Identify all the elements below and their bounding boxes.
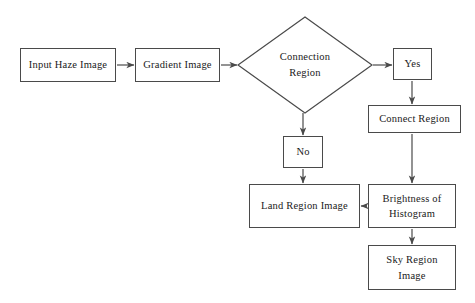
- node-connection-region[interactable]: ConnectionRegion: [238, 17, 372, 113]
- node-no[interactable]: No: [283, 136, 323, 168]
- node-land-region-image[interactable]: Land Region Image: [249, 184, 360, 228]
- node-gradient-image[interactable]: Gradient Image: [135, 48, 220, 82]
- node-sky-region-image[interactable]: Sky RegionImage: [368, 245, 456, 290]
- flowchart-canvas: Input Haze Image Gradient Image Connecti…: [0, 0, 475, 303]
- node-connect-region[interactable]: Connect Region: [368, 105, 461, 133]
- node-input-haze-image[interactable]: Input Haze Image: [20, 48, 116, 82]
- diamond-shape: [238, 17, 372, 113]
- node-yes[interactable]: Yes: [393, 48, 432, 80]
- node-brightness-of-histogram[interactable]: Brightness ofHistogram: [368, 184, 456, 228]
